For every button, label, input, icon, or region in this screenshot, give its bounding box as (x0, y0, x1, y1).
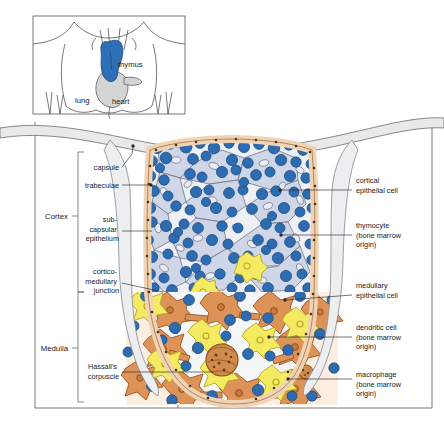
inset-label-heart: heart (112, 97, 130, 106)
region-label-medulla: Medulla (41, 344, 69, 353)
leader-dot-medullary-epithelial (283, 298, 286, 301)
leader-dot-dendritic (267, 335, 270, 338)
label-trabeculae: trabeculae (85, 181, 119, 190)
hassalls-corpuscle-shape (206, 344, 238, 376)
label-capsule: capsule (94, 163, 119, 172)
leader-dot-cortical-epithelial (278, 188, 281, 191)
inset-label-lung: lung (75, 96, 89, 105)
leader-dot-trabeculae (149, 183, 152, 186)
leader-dot-thymocyte (279, 233, 282, 236)
thymus-structure-figure: thymus lung heart (0, 0, 444, 428)
cortex-region (140, 135, 325, 307)
leader-dot-capsule (131, 144, 134, 147)
region-label-cortex: Cortex (45, 212, 68, 221)
figure-canvas: thymus lung heart (0, 0, 444, 428)
leader-dot-macrophage (286, 377, 289, 380)
inset-label-thymus: thymus (118, 60, 143, 69)
label-hassalls-corpuscle: Hassall's corpuscle (88, 362, 119, 381)
